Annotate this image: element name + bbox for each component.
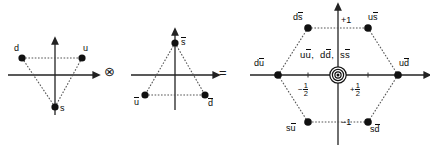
fraction-one-half-2: 1 2	[355, 82, 360, 97]
minus-sign: −	[298, 86, 303, 94]
fraction-denominator: 2	[303, 90, 308, 97]
octet-state-d-ubar-dot[interactable]	[274, 71, 282, 79]
fraction-denominator-2: 2	[355, 90, 360, 97]
octet-state-s-ubar-dot[interactable]	[304, 118, 312, 126]
fraction-one-half: 1 2	[303, 82, 308, 97]
s-ubar-overbar: u	[291, 124, 296, 133]
octet-state-s-dbar-label: sd	[370, 125, 380, 134]
octet-center-marker-icon[interactable]	[330, 67, 346, 83]
u-sbar-overbar: s	[373, 13, 378, 22]
octet-state-u-dbar-label: ud	[399, 59, 409, 68]
octet-center-states-label: uu, dd, ss	[300, 50, 350, 60]
d-ubar-overbar: u	[259, 59, 264, 68]
ubar-overbar: u	[134, 98, 139, 107]
antiquark-edge-sbar-ubar	[145, 43, 175, 95]
octet-state-u-sbar-dot[interactable]	[364, 24, 372, 32]
octet-state-s-ubar-label: su	[286, 124, 296, 133]
antiquark-state-ubar-label: u	[134, 98, 139, 107]
weight-diagram-svg	[0, 0, 430, 153]
quark-state-u-dot[interactable]	[78, 54, 85, 61]
octet-state-d-sbar-label: ds	[293, 13, 303, 22]
antiquark-state-sbar-dot[interactable]	[171, 39, 178, 46]
octet-axis-label-minus-half: − 1 2	[298, 82, 308, 97]
quark-edge-u-s	[55, 58, 82, 107]
quark-state-d-dot[interactable]	[18, 54, 25, 61]
antiquark-triplet-group	[131, 35, 213, 110]
figure-canvas: d u s ⊗ s u d = ds us du ud su sd uu, dd…	[0, 0, 430, 153]
quark-state-s-label: s	[60, 104, 65, 113]
quark-state-s-dot[interactable]	[51, 103, 58, 110]
antiquark-edge-sbar-dbar	[175, 43, 205, 95]
u-dbar-overbar: d	[404, 59, 409, 68]
sbar-overbar: s	[181, 38, 186, 47]
d-sbar-overbar: s	[298, 13, 303, 22]
antiquark-state-sbar-label: s	[181, 38, 186, 47]
equals-icon: =	[219, 66, 227, 79]
octet-state-u-sbar-label: us	[368, 13, 378, 22]
quark-state-d-label: d	[14, 44, 19, 53]
tensor-product-icon: ⊗	[104, 65, 115, 78]
s-dbar-overbar: d	[375, 125, 380, 134]
octet-state-d-ubar-label: du	[254, 59, 264, 68]
quark-triplet-group	[8, 44, 93, 115]
u-ubar-overbar: u	[306, 50, 312, 60]
quark-edge-d-s	[22, 58, 55, 107]
antiquark-state-ubar-dot[interactable]	[141, 91, 148, 98]
dbar-overbar: d	[208, 99, 213, 108]
octet-axis-label-minus-one: −1	[341, 118, 351, 127]
d-dbar-overbar: d	[326, 50, 332, 60]
octet-axis-label-plus-half: + 1 2	[350, 82, 360, 97]
octet-state-d-sbar-dot[interactable]	[304, 24, 312, 32]
octet-axis-label-plus-one: +1	[341, 16, 351, 25]
plus-sign: +	[350, 86, 355, 94]
octet-state-u-dbar-dot[interactable]	[394, 71, 402, 79]
meson-octet-group	[250, 10, 424, 145]
s-sbar-overbar: s	[345, 50, 350, 60]
octet-edge-lower-right	[368, 75, 398, 122]
antiquark-state-dbar-label: d	[208, 99, 213, 108]
quark-state-u-label: u	[83, 44, 88, 53]
octet-edge-upper-right	[368, 28, 398, 75]
